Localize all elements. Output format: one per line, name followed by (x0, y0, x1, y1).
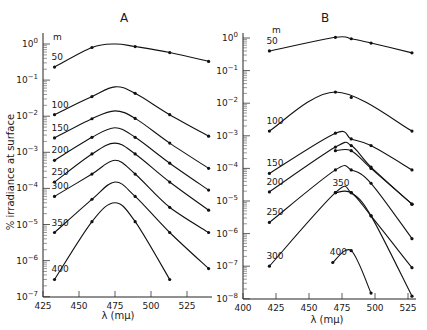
y-tick-label: 10−7 (216, 259, 238, 271)
y-tick-label: 10−8 (216, 292, 238, 304)
data-point (350, 191, 353, 194)
data-point (134, 45, 137, 48)
data-point (90, 152, 93, 155)
depth-label: 300 (266, 251, 283, 261)
y-tick-label: 10−3 (216, 129, 238, 141)
data-point (134, 136, 137, 139)
data-point (53, 65, 56, 68)
y-tick-label: 10−1 (16, 73, 38, 85)
x-tick-label: 425 (267, 303, 284, 313)
curve-100m (269, 92, 412, 131)
data-point (410, 51, 413, 54)
data-point (168, 113, 171, 116)
depth-label: 250 (52, 167, 69, 177)
curve-200m (269, 142, 412, 204)
data-point (134, 220, 137, 223)
data-point (410, 168, 413, 171)
data-point (334, 168, 337, 171)
data-point (53, 231, 56, 234)
data-point (90, 46, 93, 49)
data-point (168, 141, 171, 144)
data-point (334, 90, 337, 93)
y-axis-label: % irradiance at surface (5, 114, 16, 230)
y-tick-label: 10−2 (216, 96, 238, 108)
curve-350m (55, 182, 209, 269)
curve-200m (55, 128, 209, 190)
y-tick-label: 10−1 (216, 64, 238, 76)
data-point (410, 203, 413, 206)
y-tick-label: 10−5 (16, 218, 38, 230)
depth-label: 200 (266, 177, 283, 187)
y-tick-label: 10−4 (216, 161, 238, 173)
data-point (331, 261, 334, 264)
depth-label: 150 (52, 123, 69, 133)
y-tick-label: 10−7 (16, 290, 38, 302)
panel-b-axes: 10010−110−210−310−410−510−610−710−840042… (216, 31, 416, 313)
curve-50m (269, 37, 412, 53)
figure: % irradiance at surface A m λ (mμ) 10010… (0, 0, 427, 330)
curve-150m (55, 111, 209, 168)
x-tick-label: 500 (142, 301, 159, 311)
data-point (350, 37, 353, 40)
data-point (410, 129, 413, 132)
x-tick-label: 400 (234, 303, 251, 313)
panel-b-title: B (321, 11, 329, 25)
panel-b-legend-title: m (272, 25, 281, 35)
curve-350m (335, 191, 412, 296)
data-point (334, 146, 337, 149)
data-point (168, 180, 171, 183)
data-point (134, 195, 137, 198)
y-tick-label: 100 (222, 31, 238, 43)
panel-a-curves: 50100150200250300350400 (52, 44, 211, 281)
data-point (90, 95, 93, 98)
data-point (134, 152, 137, 155)
panel-a-x-label: λ (mμ) (101, 310, 134, 321)
panel-a-legend-title: m (53, 32, 62, 42)
data-point (410, 295, 413, 298)
data-point (350, 249, 353, 252)
data-point (90, 198, 93, 201)
depth-label: 400 (330, 247, 347, 257)
data-point (369, 144, 372, 147)
data-point (268, 221, 271, 224)
data-point (350, 137, 353, 140)
depth-label: 50 (266, 36, 278, 46)
x-tick-label: 475 (106, 301, 123, 311)
depth-label: 250 (266, 207, 283, 217)
data-point (53, 195, 56, 198)
y-tick-label: 10−6 (16, 254, 38, 266)
data-point (134, 117, 137, 120)
data-point (268, 190, 271, 193)
data-point (268, 49, 271, 52)
depth-label: 100 (266, 116, 283, 126)
data-point (90, 172, 93, 175)
data-point (207, 231, 210, 234)
data-point (207, 60, 210, 63)
data-point (207, 188, 210, 191)
data-point (369, 41, 372, 44)
x-tick-label: 475 (333, 303, 350, 313)
chart-svg: % irradiance at surface A m λ (mμ) 10010… (0, 0, 427, 330)
data-point (168, 162, 171, 165)
data-point (369, 214, 372, 217)
y-tick-label: 10−4 (16, 181, 38, 193)
data-point (334, 191, 337, 194)
x-tick-label: 500 (366, 303, 383, 313)
curve-300m (55, 160, 209, 232)
y-tick-label: 10−5 (216, 194, 238, 206)
depth-label: 100 (52, 100, 69, 110)
data-point (334, 132, 337, 135)
x-tick-label: 525 (399, 303, 416, 313)
y-tick-label: 100 (22, 37, 38, 49)
data-point (334, 36, 337, 39)
curve-50m (55, 44, 209, 67)
data-point (369, 291, 372, 294)
data-point (350, 149, 353, 152)
data-point (53, 159, 56, 162)
data-point (268, 172, 271, 175)
data-point (134, 172, 137, 175)
data-point (350, 144, 353, 147)
data-point (268, 265, 271, 268)
depth-label: 150 (266, 158, 283, 168)
x-tick-label: 525 (178, 301, 195, 311)
